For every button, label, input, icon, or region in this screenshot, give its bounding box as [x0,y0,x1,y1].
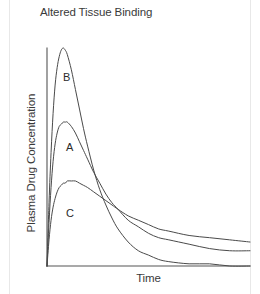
curve-label-a: A [66,141,73,153]
curve-c [47,181,250,266]
curve-group [47,48,250,266]
curve-label-c: C [66,207,74,219]
curve-label-b: B [63,71,70,83]
plot-area [0,0,260,294]
curve-a [47,122,250,266]
chart-figure: Altered Tissue Binding Plasma Drug Conce… [0,0,260,294]
